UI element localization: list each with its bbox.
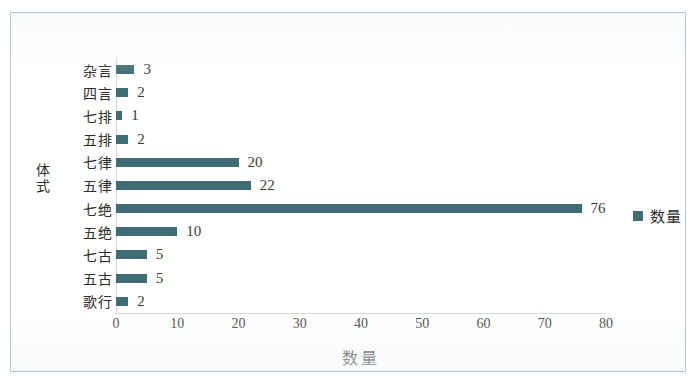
bar-row: 2 <box>116 128 606 151</box>
bar <box>116 88 128 97</box>
bar-value-label: 22 <box>260 178 275 193</box>
bar-value-label: 20 <box>248 155 263 170</box>
x-axis-tick-label: 60 <box>477 316 491 332</box>
bar <box>116 65 134 74</box>
bar-row: 20 <box>116 151 606 174</box>
x-axis-line <box>116 313 606 314</box>
x-axis-tick-label: 30 <box>293 316 307 332</box>
x-axis-tick-label: 70 <box>538 316 552 332</box>
bar-value-label: 2 <box>137 294 145 309</box>
x-axis-tick-label: 80 <box>599 316 613 332</box>
bar <box>116 274 147 283</box>
bar <box>116 204 582 213</box>
bar-row: 2 <box>116 290 606 313</box>
bar <box>116 227 177 236</box>
legend-label-quantity: 数量 <box>650 205 682 226</box>
y-axis-title: 体式 <box>25 163 51 195</box>
x-axis-tick-label: 0 <box>113 316 120 332</box>
bar-value-label: 2 <box>137 85 145 100</box>
plot-area: 321220227610552 <box>106 58 606 313</box>
bar <box>116 297 128 306</box>
bar <box>116 250 147 259</box>
x-axis-tick-label: 20 <box>232 316 246 332</box>
bar-row: 2 <box>116 81 606 104</box>
bar-value-label: 5 <box>156 271 164 286</box>
bar-value-label: 3 <box>143 62 151 77</box>
x-axis-title: 数量 <box>116 345 606 369</box>
bar-row: 76 <box>116 197 606 220</box>
legend-swatch-quantity <box>633 211 643 221</box>
bar <box>116 181 251 190</box>
bar-row: 5 <box>116 267 606 290</box>
x-axis-tick-label: 10 <box>170 316 184 332</box>
bar-value-label: 76 <box>591 201 606 216</box>
bar-value-label: 1 <box>131 108 139 123</box>
chart-legend: 数量 <box>633 205 682 226</box>
x-axis-tick-label: 40 <box>354 316 368 332</box>
bar-value-label: 2 <box>137 132 145 147</box>
x-axis-tick-label: 50 <box>415 316 429 332</box>
bar-value-label: 10 <box>186 224 201 239</box>
x-axis-tick-labels: 01020304050607080 <box>116 316 606 336</box>
bar-row: 5 <box>116 243 606 266</box>
bar-row: 10 <box>116 220 606 243</box>
chart-frame: 体式 杂言四言七排五排七律五律七绝五绝七古五古歌行 32122022761055… <box>10 12 686 372</box>
bar-series: 321220227610552 <box>116 58 606 313</box>
bar-row: 3 <box>116 58 606 81</box>
bar-value-label: 5 <box>156 247 164 262</box>
bar-row: 1 <box>116 104 606 127</box>
bar <box>116 135 128 144</box>
bar-row: 22 <box>116 174 606 197</box>
bar <box>116 158 239 167</box>
bar <box>116 111 122 120</box>
